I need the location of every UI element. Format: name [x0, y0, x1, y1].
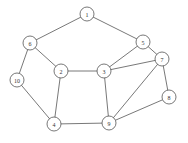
edge-8-9 [109, 97, 169, 123]
nodes-group: 12345678910 [10, 7, 176, 131]
edge-1-6 [30, 14, 87, 43]
node-label: 5 [142, 40, 145, 46]
edge-3-9 [104, 71, 109, 123]
node-1: 1 [80, 7, 94, 21]
graph-diagram: 12345678910 [0, 0, 188, 143]
edge-1-5 [87, 14, 143, 42]
node-2: 2 [54, 64, 68, 78]
edge-2-4 [54, 71, 61, 124]
node-label: 7 [161, 57, 164, 63]
node-label: 4 [53, 122, 56, 128]
node-7: 7 [155, 52, 169, 66]
edges-group [17, 14, 169, 124]
node-label: 2 [60, 69, 63, 75]
node-6: 6 [23, 36, 37, 50]
node-label: 1 [86, 12, 89, 18]
edge-4-9 [54, 123, 109, 124]
node-label: 9 [108, 121, 111, 127]
node-3: 3 [97, 64, 111, 78]
node-5: 5 [136, 35, 150, 49]
node-10: 10 [10, 73, 24, 87]
node-label: 8 [168, 95, 171, 101]
node-9: 9 [102, 116, 116, 130]
node-label: 6 [29, 41, 32, 47]
node-8: 8 [162, 90, 176, 104]
node-label: 10 [14, 78, 20, 84]
edge-10-4 [17, 80, 54, 124]
node-4: 4 [47, 117, 61, 131]
node-label: 3 [103, 69, 106, 75]
